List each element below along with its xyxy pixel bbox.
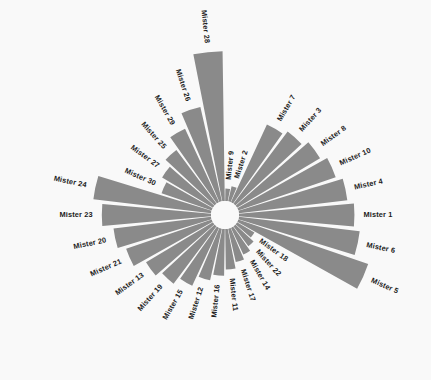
circular-bar-chart: Mister 9Mister 2Mister 7Mister 3Mister 8… xyxy=(0,0,431,380)
bar-label: Mister 1 xyxy=(363,210,392,219)
bar-label: Mister 23 xyxy=(59,210,92,219)
center-hole xyxy=(211,201,239,229)
polar-chart-canvas: Mister 9Mister 2Mister 7Mister 3Mister 8… xyxy=(0,0,431,380)
